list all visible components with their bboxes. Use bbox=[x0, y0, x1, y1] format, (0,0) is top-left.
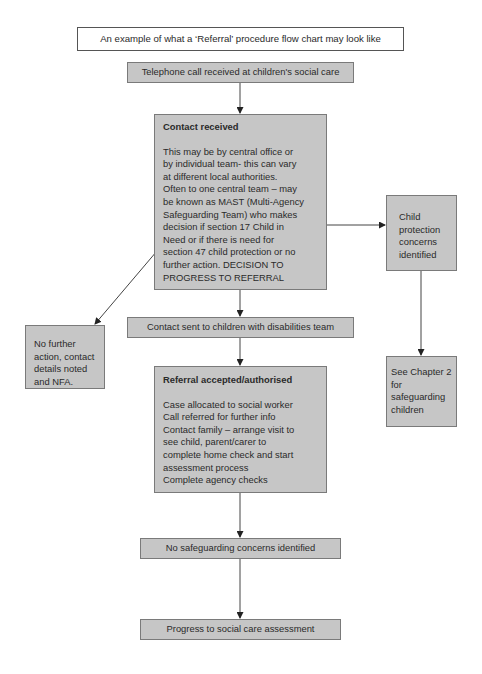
node-label: Progress to social care assessment bbox=[167, 623, 315, 636]
node-line: Complete agency checks bbox=[163, 474, 318, 487]
node-line: safeguarding bbox=[391, 391, 456, 404]
node-no-further-action: No further action, contact details noted… bbox=[25, 325, 105, 389]
node-contact-received: Contact received This may be by central … bbox=[154, 114, 327, 290]
node-line: at different local authorities. bbox=[163, 171, 318, 184]
node-line: complete home check and start bbox=[163, 449, 318, 462]
node-line: Need or if there is need for bbox=[163, 234, 318, 247]
node-telephone-call: Telephone call received at children's so… bbox=[127, 62, 354, 83]
node-line: Safeguarding Team) who makes bbox=[163, 209, 318, 222]
node-line: Case allocated to social worker bbox=[163, 399, 318, 412]
node-line: section 47 child protection or no bbox=[163, 246, 318, 259]
node-line: See Chapter 2 bbox=[391, 366, 456, 379]
node-progress-assessment: Progress to social care assessment bbox=[140, 619, 341, 640]
node-line: assessment process bbox=[163, 462, 318, 475]
node-contact-sent: Contact sent to children with disabiliti… bbox=[127, 317, 354, 338]
node-line: Contact family – arrange visit to bbox=[163, 424, 318, 437]
diagram-title: An example of what a ‘Referral’ procedur… bbox=[77, 27, 404, 51]
node-line: decision if section 17 Child in bbox=[163, 221, 318, 234]
node-line: Call referred for further info bbox=[163, 411, 318, 424]
node-line: for bbox=[391, 379, 456, 392]
node-line: This may be by central office or bbox=[163, 146, 318, 159]
node-line: No further bbox=[34, 338, 104, 351]
node-heading: Referral accepted/authorised bbox=[163, 374, 318, 387]
node-line: action, contact bbox=[34, 351, 104, 364]
node-label: No safeguarding concerns identified bbox=[166, 542, 316, 555]
node-line: further action. DECISION TO bbox=[163, 259, 318, 272]
node-child-protection: Child protection concerns identified bbox=[386, 195, 457, 271]
node-referral-accepted: Referral accepted/authorised Case alloca… bbox=[154, 366, 327, 493]
node-line: identified bbox=[399, 249, 456, 262]
node-line: and NFA. bbox=[34, 376, 104, 389]
node-heading: Contact received bbox=[163, 121, 318, 134]
node-line: concerns bbox=[399, 236, 456, 249]
node-line: protection bbox=[399, 224, 456, 237]
node-line: see child, parent/carer to bbox=[163, 436, 318, 449]
node-line: Often to one central team – may bbox=[163, 183, 318, 196]
node-line: details noted bbox=[34, 363, 104, 376]
node-line: PROGRESS TO REFERRAL bbox=[163, 272, 318, 285]
node-label: Telephone call received at children's so… bbox=[142, 66, 340, 79]
node-line: children bbox=[391, 404, 456, 417]
node-line: Child bbox=[399, 211, 456, 224]
node-label: Contact sent to children with disabiliti… bbox=[147, 321, 334, 334]
node-no-safeguarding: No safeguarding concerns identified bbox=[140, 538, 341, 559]
diagram-title-text: An example of what a ‘Referral’ procedur… bbox=[100, 33, 381, 46]
node-line: be known as MAST (Multi-Agency bbox=[163, 196, 318, 209]
node-line: by individual team- this can vary bbox=[163, 158, 318, 171]
node-see-chapter-2: See Chapter 2 for safeguarding children bbox=[386, 356, 457, 427]
